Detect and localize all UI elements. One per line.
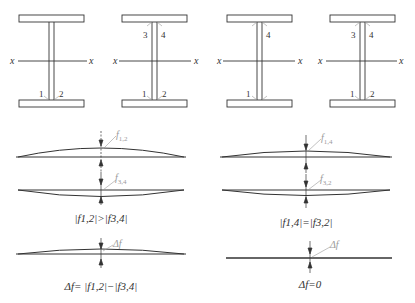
weld-label-3: 3 xyxy=(351,30,356,40)
i-beam-section-d xyxy=(326,15,397,107)
axis-label-left: x xyxy=(216,55,222,66)
weld-label-4: 4 xyxy=(369,30,374,40)
axis-label-right: x xyxy=(193,55,199,66)
deflection-label-f14: f1,4 xyxy=(321,132,333,146)
weld-label-1: 1 xyxy=(39,89,44,99)
weld-label-1: 1 xyxy=(142,89,147,99)
net-formula-right: Δf=0 xyxy=(298,278,322,290)
deflection-arrow xyxy=(304,174,321,208)
net-label-left: Δf xyxy=(112,238,123,249)
axis-label-left: x xyxy=(317,55,323,66)
weld-label-1: 1 xyxy=(350,89,355,99)
weld-label-2: 2 xyxy=(162,89,167,99)
weld-label-2: 2 xyxy=(370,89,375,99)
comparison-right: |f1,4|=|f3,2| xyxy=(279,216,332,228)
axis-label-right: x xyxy=(398,55,404,66)
axis-label-right: x xyxy=(297,55,303,66)
deflection-label-f12: f1,2 xyxy=(116,129,128,143)
i-beam-section-a xyxy=(18,15,87,107)
net-formula-left: Δf= |f1,2|−|f3,4| xyxy=(64,280,138,292)
deflection-arrow xyxy=(99,131,116,172)
deflection-arrow xyxy=(308,241,330,273)
comparison-left: |f1,2|>|f3,4| xyxy=(74,212,127,224)
weld-label-3: 3 xyxy=(143,30,148,40)
deflection-arrow xyxy=(99,238,113,268)
axis-label-right: x xyxy=(88,55,94,66)
weld-label-4: 4 xyxy=(266,30,271,40)
deflection-label-f32: f3,2 xyxy=(320,173,332,187)
i-beam-section-c xyxy=(223,15,295,107)
weld-label-1: 1 xyxy=(246,89,251,99)
net-label-right: Δf xyxy=(329,239,340,250)
weld-label-2: 2 xyxy=(59,89,64,99)
weld-label-4: 4 xyxy=(161,30,166,40)
deflection-arrow xyxy=(304,135,321,173)
axis-label-left: x xyxy=(112,55,118,66)
axis-label-left: x xyxy=(9,55,15,66)
deflection-label-f34: f3,4 xyxy=(115,172,127,186)
welding-distortion-diagram: x x 1 2 x x 3 4 1 2 x x 4 1 x x 3 xyxy=(0,0,415,303)
deflection-arrow xyxy=(99,172,116,205)
i-beam-section-b xyxy=(119,15,191,107)
